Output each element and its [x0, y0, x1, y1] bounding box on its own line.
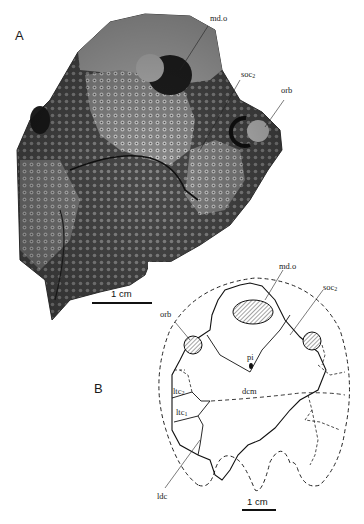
label-soc2-a: soc2 [241, 70, 255, 79]
label-orb-b: orb [160, 310, 171, 319]
mdo-opening [233, 300, 273, 324]
label-dcm: dcm [242, 387, 257, 396]
label-ltc1: ltc1 [176, 408, 188, 417]
label-mdo-b: md.o [279, 262, 296, 271]
pineal-dot [249, 363, 253, 369]
label-ltc2: ltc2 [173, 387, 185, 396]
label-pi: pi [247, 353, 254, 362]
label-soc2-b: soc2 [323, 283, 337, 292]
leader-orb-a [265, 100, 284, 127]
fossil-photograph [0, 0, 364, 524]
orbit-right [303, 332, 321, 350]
label-ldc: ldc [157, 492, 167, 501]
label-orb-a: orb [281, 86, 292, 95]
scale-label-a: 1 cm [111, 288, 132, 299]
label-mdo-a: md.o [210, 14, 227, 23]
panel-letter-b: B [94, 381, 103, 396]
orbit-left [184, 336, 202, 354]
scale-label-b: 1 cm [247, 496, 268, 507]
